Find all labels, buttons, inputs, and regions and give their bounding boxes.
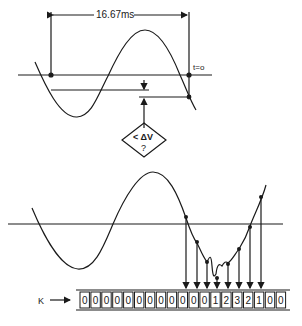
register-cell-value: 0	[191, 295, 197, 306]
k-label: K	[38, 296, 44, 306]
decision-label-line1: < ΔV	[133, 132, 153, 142]
register-cell-value: 0	[82, 295, 88, 306]
register-cell-value: 0	[267, 295, 273, 306]
register-cell-value: 0	[278, 295, 284, 306]
register-cell-value: 2	[245, 295, 251, 306]
shift-register: 0000000000001232100	[80, 292, 286, 308]
register-cell-value: 0	[202, 295, 208, 306]
register-cell-value: 0	[136, 295, 142, 306]
register-cell-value: 0	[93, 295, 99, 306]
register-cell-value: 1	[256, 295, 262, 306]
register-cell-value: 0	[169, 295, 175, 306]
diagram-canvas: 16.67ms t=o < ΔV ?	[0, 0, 302, 326]
register-cell-value: 0	[147, 295, 153, 306]
register-cell-value: 1	[213, 295, 219, 306]
register-cell-value: 0	[180, 295, 186, 306]
period-label: 16.67ms	[96, 9, 134, 20]
register-cell-value: 0	[158, 295, 164, 306]
register-cell-value: 0	[126, 295, 132, 306]
register-cell-value: 2	[224, 295, 230, 306]
register-cell-value: 0	[115, 295, 121, 306]
decision-label-line2: ?	[141, 143, 146, 153]
top-diagram	[18, 12, 212, 157]
register-cell-value: 3	[235, 295, 241, 306]
register-cell-value: 0	[104, 295, 110, 306]
bottom-diagram	[8, 172, 290, 310]
t0-label: t=o	[193, 63, 205, 72]
top-sine-wave	[35, 30, 196, 117]
